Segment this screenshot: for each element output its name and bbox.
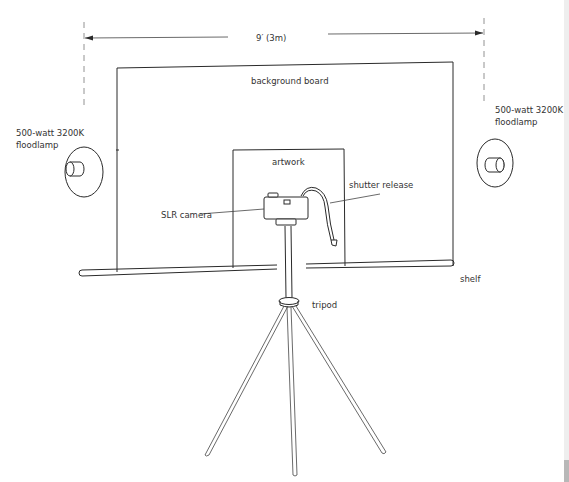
right-floodlamp: 500-watt 3200K floodlamp: [477, 105, 563, 187]
right-lamp-label-line1: 500-watt 3200K: [495, 105, 563, 115]
background-board: background board: [116, 62, 453, 272]
tripod-label: tripod: [312, 300, 337, 310]
tripod: tripod: [205, 226, 386, 476]
artwork-label: artwork: [272, 157, 305, 167]
arrow-right-icon: [475, 31, 483, 36]
scrollbar-thumb[interactable]: [564, 460, 569, 482]
shelf-label: shelf: [460, 274, 481, 284]
left-lamp-label-line2: floodlamp: [16, 140, 58, 150]
left-lamp-label-line1: 500-watt 3200K: [16, 128, 84, 138]
vertical-scrollbar[interactable]: [564, 0, 569, 482]
shelf: shelf: [79, 260, 481, 284]
background-board-label: background board: [251, 76, 329, 86]
slr-camera-label: SLR camera: [161, 210, 212, 220]
shutter-release: shutter release: [301, 180, 413, 246]
arrow-left-icon: [85, 36, 93, 41]
shutter-release-label: shutter release: [349, 180, 413, 190]
left-floodlamp: 500-watt 3200K floodlamp: [16, 128, 103, 197]
dimension-label: 9′ (3m): [256, 33, 286, 43]
photography-setup-diagram: 9′ (3m) background board artwork shelf t…: [0, 0, 569, 482]
dimension-line: 9′ (3m): [84, 18, 484, 110]
right-lamp-label-line2: floodlamp: [495, 117, 537, 127]
slr-camera: SLR camera: [161, 193, 308, 225]
